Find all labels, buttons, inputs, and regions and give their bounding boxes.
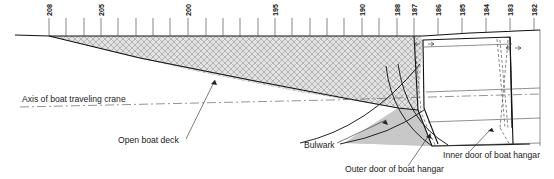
leader-open-boat-deck	[186, 80, 215, 139]
frame-label-group: 208205200195190188187186185184183182	[45, 4, 539, 16]
frame-label-208: 208	[45, 4, 54, 16]
hangar-grid-lines	[424, 30, 540, 146]
frame-label-205: 205	[97, 4, 106, 16]
callout-label-group: Axis of boat traveling craneOpen boat de…	[22, 94, 540, 174]
callout-label-axis-of-boat-traveling-crane: Axis of boat traveling crane	[22, 94, 126, 104]
frame-label-186: 186	[434, 4, 443, 16]
callout-label-bulwark: Bulwark	[304, 140, 335, 150]
frame-label-183: 183	[506, 4, 515, 16]
frame-label-185: 185	[458, 4, 467, 16]
deck-line	[15, 30, 540, 36]
frame-label-190: 190	[358, 4, 367, 16]
frame-label-188: 188	[393, 4, 402, 16]
boat-hangar-profile-drawing: 208205200195190188187186185184183182 Axi…	[0, 0, 554, 179]
callout-label-outer-door-of-boat-hangar: Outer door of boat hangar	[345, 164, 444, 174]
frame-label-184: 184	[482, 4, 491, 16]
callout-label-inner-door-of-boat-hangar: Inner door of boat hangar	[443, 150, 540, 160]
frame-tick-lines	[66, 18, 379, 36]
frame-label-187: 187	[410, 4, 419, 16]
callout-label-open-boat-deck: Open boat deck	[118, 135, 179, 145]
door-direction-arrows	[414, 42, 521, 50]
frame-label-195: 195	[271, 4, 280, 16]
frame-label-182: 182	[530, 4, 539, 16]
frame-label-200: 200	[184, 4, 193, 16]
leader-inner-door-of-boat-hangar	[470, 128, 492, 151]
arrowhead-open-boat-deck	[211, 80, 217, 85]
